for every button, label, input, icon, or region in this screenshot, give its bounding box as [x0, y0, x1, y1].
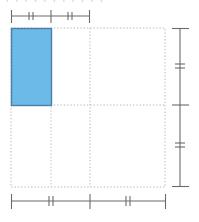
top-dimension-line	[11, 10, 90, 23]
right-dimension-line	[172, 28, 189, 187]
dimension-diagram-figure: ı ı ı ı ı ı ı ı ı ı ı	[0, 0, 199, 222]
bottom-dimension-line	[11, 194, 166, 209]
diagram-canvas	[0, 0, 199, 222]
highlighted-rectangle[interactable]	[12, 29, 52, 106]
